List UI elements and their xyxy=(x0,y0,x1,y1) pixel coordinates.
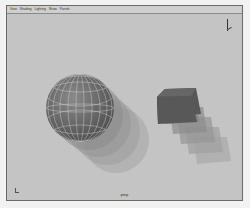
menu-view[interactable]: View xyxy=(10,6,17,13)
menu-panels[interactable]: Panels xyxy=(60,6,70,13)
sphere-icon xyxy=(46,74,114,142)
cube-icon xyxy=(157,88,201,124)
viewport-panel: View Shading Lighting Show Panels xyxy=(6,5,243,201)
view-axis-icon[interactable] xyxy=(223,19,233,33)
3d-viewport[interactable]: persp xyxy=(7,14,242,200)
menu-lighting[interactable]: Lighting xyxy=(35,6,46,13)
camera-label: persp xyxy=(121,193,129,197)
axis-indicator-icon xyxy=(13,188,19,194)
panel-menubar: View Shading Lighting Show Panels xyxy=(7,6,242,14)
menu-show[interactable]: Show xyxy=(49,6,57,13)
menu-shading[interactable]: Shading xyxy=(20,6,32,13)
scene-render xyxy=(7,14,243,201)
